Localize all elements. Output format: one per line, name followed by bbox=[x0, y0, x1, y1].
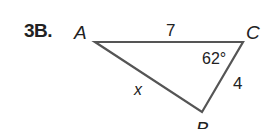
side-label-cb: 4 bbox=[233, 74, 242, 93]
angle-label-c: 62° bbox=[202, 50, 226, 67]
triangle-diagram: A C B 7 4 x 62° bbox=[0, 0, 278, 129]
side-label-ac: 7 bbox=[166, 21, 175, 40]
side-label-ab: x bbox=[133, 81, 143, 98]
vertex-label-a: A bbox=[73, 22, 87, 43]
vertex-label-c: C bbox=[246, 22, 260, 43]
vertex-label-b: B bbox=[196, 118, 209, 129]
